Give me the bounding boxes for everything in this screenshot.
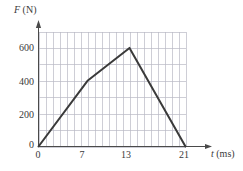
y-axis-title: F (N) bbox=[14, 5, 37, 15]
grid-lines bbox=[39, 32, 187, 148]
force-time-chart: 600 400 200 0 0 7 13 21 F (N) t (ms) bbox=[0, 0, 243, 171]
y-tick-label-200: 200 bbox=[2, 110, 34, 120]
x-tick-label-21: 21 bbox=[176, 150, 192, 160]
y-axis-title-unit: (N) bbox=[23, 4, 37, 15]
x-axis-title-unit: (ms) bbox=[216, 148, 234, 159]
x-tick-label-7: 7 bbox=[75, 150, 89, 160]
x-axis-title: t (ms) bbox=[211, 149, 235, 159]
x-axis-title-variable: t bbox=[211, 148, 214, 159]
y-axis-title-variable: F bbox=[14, 4, 20, 15]
y-tick-label-600: 600 bbox=[2, 43, 34, 53]
y-tick-label-400: 400 bbox=[2, 77, 34, 87]
x-tick-label-0: 0 bbox=[31, 150, 45, 160]
x-tick-label-13: 13 bbox=[118, 150, 134, 160]
chart-plot-area bbox=[0, 0, 243, 171]
y-tick-label-0: 0 bbox=[2, 140, 34, 150]
axis-lines bbox=[36, 20, 212, 149]
